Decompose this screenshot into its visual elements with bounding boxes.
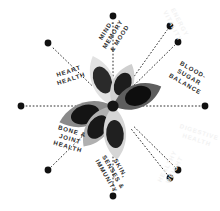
flower-hub-icon — [107, 100, 118, 111]
wellness-wheel-diagram: MIND, MEMORY & MOODBLOOD- SUGAR BALANCEH… — [0, 0, 220, 211]
